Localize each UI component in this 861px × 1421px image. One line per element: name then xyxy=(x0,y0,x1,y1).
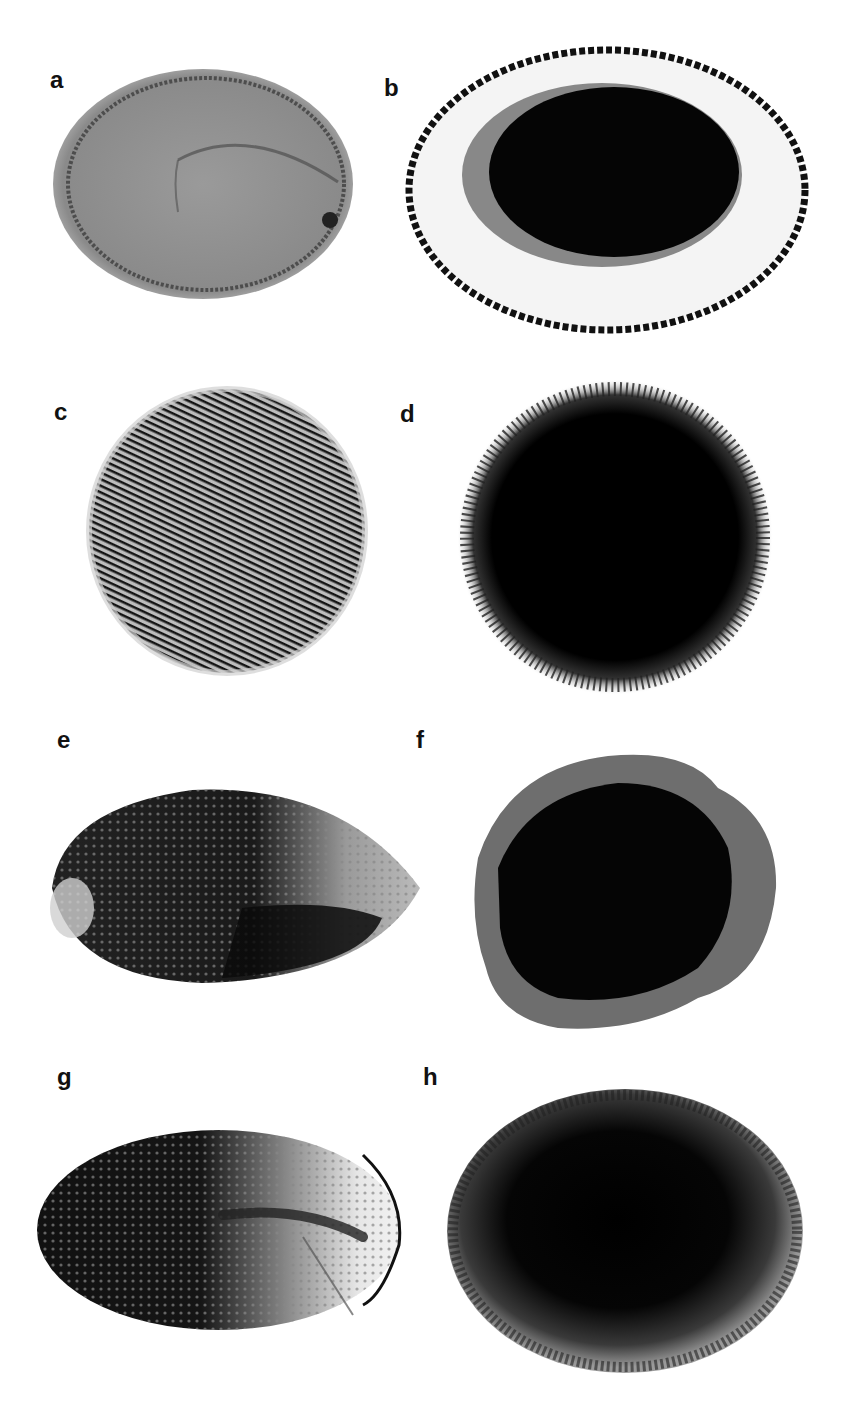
seed-image-f xyxy=(458,748,784,1036)
seed-image-h xyxy=(442,1085,808,1377)
panel-label-d: d xyxy=(400,402,415,426)
panel-label-g: g xyxy=(57,1065,72,1089)
panel-label-b: b xyxy=(384,76,399,100)
panel-label-f: f xyxy=(416,728,424,752)
panel-label-c: c xyxy=(54,400,67,424)
panel-label-e: e xyxy=(57,728,70,752)
seed-image-c xyxy=(82,383,368,679)
seed-image-e xyxy=(42,778,424,993)
seed-image-d xyxy=(455,375,775,695)
seed-image-b xyxy=(402,42,814,338)
seed-image-g xyxy=(33,1125,405,1335)
panel-label-h: h xyxy=(423,1065,438,1089)
seed-image-a xyxy=(38,62,358,304)
